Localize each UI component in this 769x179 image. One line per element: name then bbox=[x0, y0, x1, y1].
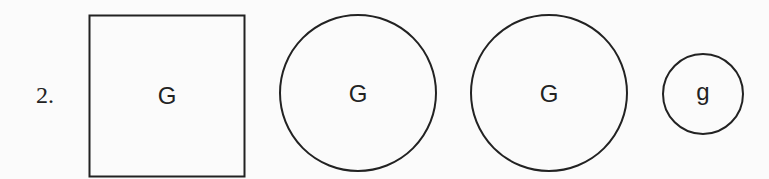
circle-2-letter: G bbox=[540, 80, 559, 107]
large-circle-1: G bbox=[280, 15, 436, 171]
diagram-canvas: 2. G G G g bbox=[0, 0, 769, 179]
large-circle-2: G bbox=[471, 15, 627, 171]
square-letter: G bbox=[158, 82, 177, 109]
small-circle: g bbox=[663, 54, 743, 134]
circle-1-letter: G bbox=[349, 80, 368, 107]
small-circle-letter: g bbox=[696, 78, 709, 105]
item-number: 2. bbox=[36, 82, 54, 108]
square-shape: G bbox=[90, 16, 245, 177]
